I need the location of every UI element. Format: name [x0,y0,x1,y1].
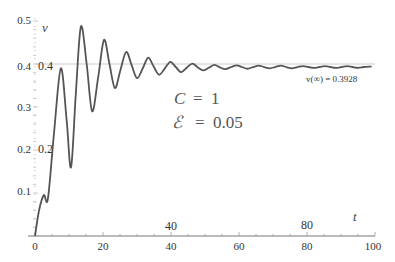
param-c-symbol: C [174,89,186,108]
x-tick-label-40: 40 [166,240,178,252]
y-tick-label-0-3: 0.3 [17,101,31,113]
inner-x-label-80: 80 [301,218,313,232]
param-c-value: = 1 [193,89,220,108]
inner-y-label-0-4: 0.4 [38,59,53,73]
y-tick-label-0-5: 0.5 [17,14,31,26]
param-e-value: = 0.05 [195,113,243,132]
x-axis-ticks [35,232,375,236]
x-axis-title: t [353,209,357,224]
x-tick-label-100: 100 [365,240,382,252]
inner-y-label-0-2: 0.2 [38,142,53,156]
y-axis-ticks [33,21,38,227]
y-tick-label-0-2: 0.2 [17,143,31,155]
x-tick-label-60: 60 [234,240,246,252]
asymptote-annotation: v(∞) = 0.3928 [306,74,358,84]
damped-oscillation-chart: 0 20 40 60 80 100 0.1 0.2 0.3 0.4 0.5 0.… [0,0,395,262]
y-tick-label-0-1: 0.1 [17,185,31,197]
y-axis-title: v [42,20,48,35]
x-tick-label-0: 0 [32,240,38,252]
x-tick-label-80: 80 [302,240,314,252]
param-e-symbol: ℰ [172,113,184,132]
x-tick-label-20: 20 [98,240,110,252]
inner-x-label-40: 40 [165,219,177,233]
y-tick-label-0-4: 0.4 [17,60,31,72]
